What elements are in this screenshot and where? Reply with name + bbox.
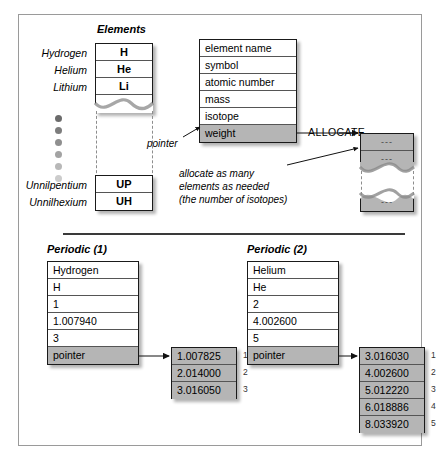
allocate-block-top: --- --- [360, 133, 414, 163]
element-label-helium: Helium [19, 64, 87, 76]
figure-frame: Elements Hydrogen Helium Lithium H He Li… [18, 14, 422, 446]
ellipsis-dot-2 [55, 127, 62, 134]
periodic-1-field-mass: 1.007940 [48, 313, 138, 330]
periodic-1-field-name: Hydrogen [48, 262, 138, 279]
ellipsis-dot-4 [55, 151, 62, 158]
allocate-label: ALLOCATE [308, 126, 365, 138]
allocate-note-line-1: allocate as many [179, 167, 254, 180]
allocate-note-line-3: (the number of isotopes) [179, 193, 287, 206]
periodic-2-index-3: 3 [431, 384, 436, 394]
allocate-note-line-2: elements as needed [179, 180, 269, 193]
elements-caption: Elements [97, 23, 146, 35]
periodic-1-isotope-2: 2.014000 [172, 365, 236, 382]
periodic-2-isotope-list: 3.016030 4.002600 5.012220 6.018886 8.03… [359, 347, 425, 433]
periodic-1-field-atomic-number: 1 [48, 296, 138, 313]
pointer-annotation: pointer [147, 137, 178, 150]
periodic-2-isotope-2: 4.002600 [360, 365, 424, 382]
record-field-element-name: element name [200, 40, 296, 57]
elements-table-top: H He Li [95, 43, 153, 113]
periodic-2-table: Helium He 2 4.002600 5 pointer [247, 261, 339, 365]
record-field-table: element name symbol atomic number mass i… [199, 39, 297, 143]
periodic-2-isotope-5: 8.033920 [360, 416, 424, 433]
periodic-2-index-5: 5 [431, 418, 436, 428]
periodic-2-isotope-3: 5.012220 [360, 382, 424, 399]
element-symbol-up: UP [96, 176, 152, 193]
element-label-unnilpentium: Unnilpentium [19, 179, 87, 191]
periodic-2-index-4: 4 [431, 401, 436, 411]
periodic-1-field-pointer: pointer [48, 347, 138, 364]
periodic-2-field-name: Helium [248, 262, 338, 279]
record-field-mass: mass [200, 91, 296, 108]
periodic-2-field-symbol: He [248, 279, 338, 296]
periodic-1-isotope-3: 3.016050 [172, 382, 236, 399]
periodic-2-isotope-1: 3.016030 [360, 348, 424, 365]
allocate-cell-2: --- [361, 151, 413, 168]
element-label-hydrogen: Hydrogen [19, 47, 87, 59]
ellipsis-dot-1 [55, 115, 62, 122]
allocate-dash-right [413, 171, 414, 195]
periodic-2-field-isotope: 5 [248, 330, 338, 347]
record-field-weight: weight [200, 125, 296, 142]
record-field-symbol: symbol [200, 57, 296, 74]
element-label-lithium: Lithium [19, 81, 87, 93]
periodic-1-isotope-list: 1.007825 2.014000 3.016050 [171, 347, 237, 399]
elements-table-bottom: UP UH [95, 175, 153, 211]
periodic-2-index-2: 2 [431, 367, 436, 377]
element-symbol-h: H [96, 44, 152, 61]
elements-dash-left [96, 111, 97, 183]
periodic-2-isotope-4: 6.018886 [360, 399, 424, 416]
allocate-cell-3: --- [361, 194, 413, 211]
periodic-1-index-3: 3 [243, 384, 248, 394]
element-symbol-he: He [96, 61, 152, 78]
periodic-1-field-symbol: H [48, 279, 138, 296]
element-row-blank [96, 95, 152, 112]
record-field-atomic-number: atomic number [200, 74, 296, 91]
element-label-unnilhexium: Unnilhexium [19, 196, 87, 208]
periodic-2-field-mass: 4.002600 [248, 313, 338, 330]
periodic-1-field-isotope: 3 [48, 330, 138, 347]
allocate-cell-1: --- [361, 134, 413, 151]
ellipsis-dot-3 [55, 139, 62, 146]
periodic-1-table: Hydrogen H 1 1.007940 3 pointer [47, 261, 139, 365]
periodic-1-index-2: 2 [243, 367, 248, 377]
periodic-2-caption: Periodic (2) [247, 243, 307, 255]
periodic-2-index-1: 1 [431, 350, 436, 360]
periodic-2-field-atomic-number: 2 [248, 296, 338, 313]
periodic-2-field-pointer: pointer [248, 347, 338, 364]
ellipsis-dot-5 [55, 163, 62, 170]
element-symbol-uh: UH [96, 193, 152, 210]
periodic-1-isotope-1: 1.007825 [172, 348, 236, 365]
periodic-1-caption: Periodic (1) [47, 243, 107, 255]
section-divider [63, 233, 405, 235]
element-symbol-li: Li [96, 78, 152, 95]
record-field-isotope: isotope [200, 108, 296, 125]
allocate-block-bottom: --- [360, 193, 414, 212]
allocate-dash-left [361, 171, 362, 195]
